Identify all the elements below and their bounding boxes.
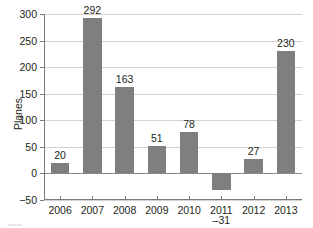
y-axis-tick bbox=[40, 200, 44, 201]
plot-frame: −50050100150200250300 202921635178–31272… bbox=[44, 14, 302, 200]
bar bbox=[115, 87, 134, 174]
bar-value-label: 51 bbox=[151, 133, 163, 144]
x-axis-tick bbox=[157, 196, 158, 200]
x-axis-spine bbox=[44, 199, 302, 200]
x-axis-label: 2010 bbox=[177, 205, 200, 216]
bar bbox=[212, 173, 231, 189]
bar bbox=[51, 163, 70, 174]
bar-value-label: 20 bbox=[54, 150, 66, 161]
x-axis-tick bbox=[189, 196, 190, 200]
x-axis-label: 2007 bbox=[81, 205, 104, 216]
y-axis-tick-label: 300 bbox=[19, 9, 37, 20]
bar bbox=[244, 159, 263, 173]
zero-gridline bbox=[44, 173, 302, 174]
bar-value-label: –31 bbox=[213, 215, 231, 226]
x-axis-label: 2011 bbox=[210, 205, 233, 216]
x-axis-tick bbox=[221, 196, 222, 200]
gridline bbox=[44, 200, 302, 201]
x-axis-tick bbox=[254, 196, 255, 200]
bar-value-label: 292 bbox=[84, 5, 102, 16]
bar-value-label: 230 bbox=[277, 38, 295, 49]
bar bbox=[180, 132, 199, 173]
x-axis-tick bbox=[92, 196, 93, 200]
bar-value-label: 163 bbox=[116, 74, 134, 85]
bar-chart-figure: Planes −50050100150200250300 20292163517… bbox=[0, 0, 313, 228]
y-axis-tick-label: 0 bbox=[31, 168, 37, 179]
x-axis-label: 2008 bbox=[113, 205, 136, 216]
y-axis-tick-label: −50 bbox=[19, 195, 37, 206]
x-axis-tick bbox=[286, 196, 287, 200]
x-axis-label: 2013 bbox=[274, 205, 297, 216]
bar bbox=[277, 51, 296, 173]
bar bbox=[148, 146, 167, 173]
x-axis-tick bbox=[125, 196, 126, 200]
plot-area: −50050100150200250300 202921635178–31272… bbox=[44, 14, 302, 200]
cropped-edge-artifact bbox=[8, 224, 22, 226]
y-axis-tick-label: 150 bbox=[19, 88, 37, 99]
y-axis-spine bbox=[44, 14, 45, 200]
bar bbox=[83, 18, 102, 173]
y-axis-tick-label: 250 bbox=[19, 35, 37, 46]
bar-value-label: 27 bbox=[248, 146, 260, 157]
y-axis-tick-label: 200 bbox=[19, 62, 37, 73]
x-axis-label: 2009 bbox=[145, 205, 168, 216]
x-axis-label: 2006 bbox=[48, 205, 71, 216]
bar-value-label: 78 bbox=[183, 119, 195, 130]
x-axis-label: 2012 bbox=[242, 205, 265, 216]
y-axis-tick-label: 100 bbox=[19, 115, 37, 126]
y-axis-tick-label: 50 bbox=[25, 142, 37, 153]
x-axis-tick bbox=[60, 196, 61, 200]
